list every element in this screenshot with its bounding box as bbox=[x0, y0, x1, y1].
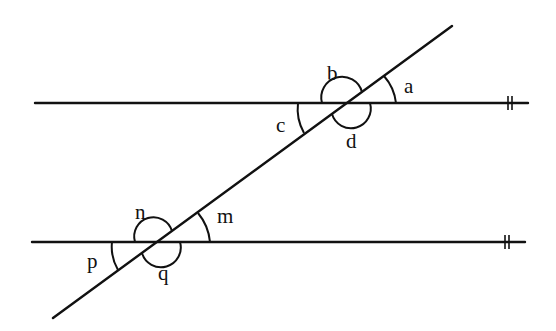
angle-c-arc bbox=[298, 103, 304, 133]
angle-label-b: b bbox=[327, 61, 338, 85]
angle-p-arc bbox=[112, 242, 118, 270]
top-intersection-arcs bbox=[298, 76, 396, 133]
angle-label-d: d bbox=[346, 129, 357, 153]
angle-m-arc bbox=[198, 213, 210, 242]
angle-label-c: c bbox=[276, 113, 285, 137]
angle-label-p: p bbox=[87, 249, 98, 273]
angle-label-n: n bbox=[135, 200, 146, 224]
angle-label-q: q bbox=[158, 261, 169, 285]
angle-d-arc bbox=[332, 103, 371, 128]
angle-a-arc bbox=[384, 76, 396, 103]
angle-label-a: a bbox=[404, 74, 414, 98]
transversal-line bbox=[53, 26, 452, 318]
angle-label-m: m bbox=[217, 204, 233, 228]
parallel-lines-diagram: a b c d m n p q bbox=[0, 0, 556, 331]
